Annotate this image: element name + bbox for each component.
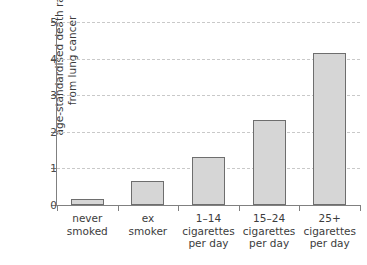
y-axis-tick-label: 0 [41,200,57,211]
gridline [57,22,360,23]
x-axis-tick [239,205,240,211]
bar [71,199,104,205]
x-axis-category-line: per day [300,237,359,250]
y-axis-tick-label: 4 [41,54,57,65]
x-axis-tick [299,205,300,211]
bar [313,53,346,205]
x-axis-tick [118,205,119,211]
x-axis-category-line: 25+ [300,212,359,225]
y-axis-tick-label: 3 [41,90,57,101]
x-axis-tick [360,205,361,211]
x-axis-tick [57,205,58,211]
x-axis-category-line: never [58,212,117,225]
x-axis-category-line: 15–24 [240,212,299,225]
y-axis-tick-label: 1 [41,163,57,174]
x-axis-category-label: 15–24cigarettesper day [240,212,299,250]
bar [253,120,286,205]
x-axis-category-line: smoked [58,225,117,238]
x-axis-category-line: cigarettes [240,225,299,238]
x-axis-category-line: 1–14 [179,212,238,225]
bar [192,157,225,205]
x-axis-category-line: cigarettes [300,225,359,238]
x-axis-category-label: neversmoked [58,212,117,237]
x-axis-category-label: 1–14cigarettesper day [179,212,238,250]
x-axis-category-line: per day [179,237,238,250]
x-axis-tick [178,205,179,211]
x-axis-category-label: exsmoker [119,212,178,237]
x-axis-category-line: cigarettes [179,225,238,238]
x-axis-category-line: smoker [119,225,178,238]
x-axis-category-line: ex [119,212,178,225]
bar [131,181,164,205]
y-axis-tick-label: 2 [41,127,57,138]
y-axis-line [56,21,57,206]
x-axis-category-label: 25+cigarettesper day [300,212,359,250]
bar-chart: age-standardised death rate from lung ca… [0,0,367,265]
x-axis-category-line: per day [240,237,299,250]
y-axis-tick-label: 5 [41,17,57,28]
